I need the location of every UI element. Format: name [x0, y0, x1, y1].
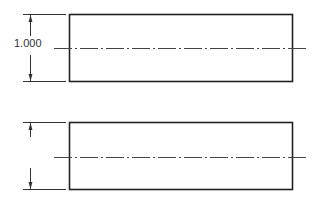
arrow-down-icon — [29, 74, 33, 81]
top-view: 1.000 — [14, 15, 308, 82]
dimension-value: 1.000 — [14, 37, 42, 49]
arrow-up-icon — [29, 123, 33, 130]
engineering-drawing: 1.000 — [0, 0, 324, 199]
part-outline — [70, 123, 293, 190]
arrow-up-icon — [29, 15, 33, 22]
bottom-view — [23, 123, 308, 190]
arrow-down-icon — [29, 182, 33, 189]
drawing-canvas: 1.000 — [0, 0, 324, 199]
